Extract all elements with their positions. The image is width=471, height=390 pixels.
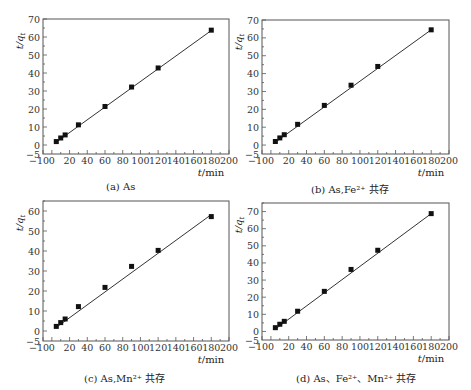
y-axis-title: t/qt [233, 217, 246, 234]
data-point-marker [375, 248, 380, 253]
x-tick-label: 180 [422, 341, 440, 352]
y-tick-label: 0 [253, 326, 259, 337]
data-point-marker [295, 309, 300, 314]
x-axis-title: t/min [418, 353, 445, 364]
chart-d-plot: −10020406080100120140160180200t/min−5010… [0, 0, 471, 390]
x-tick-label: 160 [404, 341, 422, 352]
plot-frame [262, 203, 449, 340]
y-tick-label: 50 [247, 240, 259, 251]
x-tick-label: 120 [369, 341, 387, 352]
data-point-marker [322, 289, 327, 294]
data-point-marker [277, 322, 282, 327]
x-tick-label: 100 [351, 341, 369, 352]
x-tick-label: 60 [318, 341, 330, 352]
data-point-marker [349, 267, 354, 272]
x-tick-label: 20 [283, 341, 295, 352]
data-point-marker [273, 325, 278, 330]
data-point-marker [282, 319, 287, 324]
y-tick-label: 20 [247, 292, 259, 303]
caption-d: (d) As、Fe²⁺、Mn²⁺ 共存 [296, 370, 416, 385]
x-tick-label: 40 [300, 341, 312, 352]
x-tick-label: 140 [387, 341, 405, 352]
x-tick-label: 200 [440, 341, 458, 352]
panel-d: −10020406080100120140160180200t/min−5010… [0, 0, 471, 390]
y-tick-label: 40 [247, 257, 259, 268]
x-tick-label: 0 [268, 341, 274, 352]
y-tick-label: 70 [247, 206, 259, 217]
data-point-marker [429, 211, 434, 216]
data-points [273, 211, 434, 330]
y-tick-label: 30 [247, 275, 259, 286]
y-tick-label: 60 [247, 223, 259, 234]
x-tick-label: 80 [336, 341, 348, 352]
y-tick-label: 10 [247, 309, 259, 320]
y-axis: −5010203040506070t/qt [233, 203, 266, 346]
